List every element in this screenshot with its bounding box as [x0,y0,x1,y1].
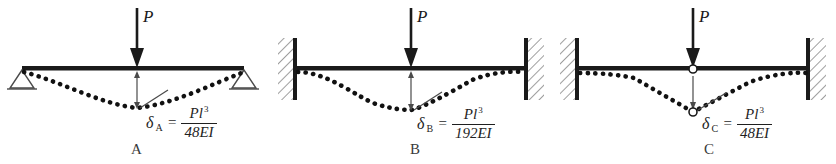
fraction-denominator-b: 192EI [452,125,495,142]
fraction-a: Pl3 48EI [181,105,216,140]
delta-glyph-c: δ [702,115,709,133]
beam-b [296,66,525,71]
numerator-exponent-b: 3 [478,105,483,115]
delta-symbol-a: δA [146,114,163,132]
panel-b-drawing [272,0,554,164]
panel-c: P δC = Pl3 48EI C [554,0,836,164]
panel-a-drawing [0,0,272,164]
panel-caption-b: B [410,142,421,157]
roller-support-a [229,70,259,89]
internal-hinge-bottom-c [689,108,697,116]
deflection-arrow-b [408,71,414,111]
panel-b: P δB = Pl3 192EI B [272,0,554,164]
numerator-exponent-a: 3 [204,104,209,114]
delta-subscript-b: B [426,123,433,134]
delta-symbol-b: δB [417,115,433,133]
numerator-text-a: Pl [190,105,203,121]
fixed-support-b-left [278,38,297,100]
deflection-formula-c: δC = Pl3 48EI [702,106,772,141]
delta-subscript-a: A [155,122,163,133]
fraction-c: Pl3 48EI [737,106,772,141]
beam-deflection-figure: P δA = Pl3 48EI A [0,0,836,164]
fixed-support-b-right [524,38,544,100]
load-arrow-a [130,8,144,68]
fixed-support-c-left [560,38,579,100]
equals-sign-c: = [723,115,731,132]
load-label-a: P [143,8,153,25]
fraction-b: Pl3 192EI [452,106,495,141]
panel-c-drawing [554,0,836,164]
equals-sign-a: = [168,114,176,131]
panel-caption-a: A [131,142,142,157]
fraction-numerator-c: Pl3 [742,106,767,124]
delta-subscript-c: C [711,123,718,134]
beam-a [22,66,244,71]
delta-glyph-b: δ [417,115,424,133]
deflection-formula-b: δB = Pl3 192EI [417,106,495,141]
numerator-text-b: Pl [464,106,477,122]
fixed-support-c-right [806,38,826,100]
fraction-denominator-c: 48EI [737,125,772,142]
delta-glyph-a: δ [146,114,153,132]
deflection-arrow-c [690,76,696,110]
equals-sign-b: = [438,115,446,132]
load-label-c: P [699,8,709,25]
delta-symbol-c: δC [702,115,718,133]
load-arrow-c [686,8,700,68]
deflection-curve-a [24,72,244,108]
fraction-numerator-b: Pl3 [461,106,486,124]
panel-caption-c: C [704,142,715,157]
deflection-formula-a: δA = Pl3 48EI [146,105,217,140]
numerator-exponent-c: 3 [759,105,764,115]
panel-a: P δA = Pl3 48EI A [0,0,272,164]
load-label-b: P [417,8,427,25]
internal-hinge-top-c [689,65,697,73]
deflection-arrow-a [134,71,140,109]
fraction-numerator-a: Pl3 [187,105,212,123]
fraction-denominator-a: 48EI [181,124,216,141]
load-arrow-b [404,8,418,68]
numerator-text-c: Pl [745,106,758,122]
